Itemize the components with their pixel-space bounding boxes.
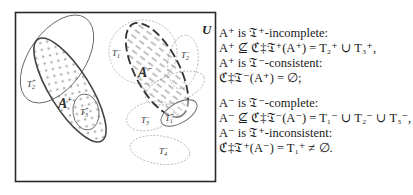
text-line-3: A⁺ is 𝔗⁻-consistent: bbox=[219, 56, 413, 71]
label-T1-minus: T1− bbox=[112, 47, 121, 59]
text-gap bbox=[219, 86, 413, 96]
text-line-8: A⁻ is 𝔗⁺-inconsistent: bbox=[219, 126, 413, 141]
text-line-7: A⁻ ⊈ ℭ‡𝔗⁻(A⁻) = T₁⁻ ∪ T₂⁻ ∪ T₃⁻, bbox=[219, 111, 413, 126]
label-T4-minus: T4− bbox=[159, 145, 168, 157]
label-T1-plus: T1+ bbox=[165, 112, 174, 124]
text-line-9: ℭ‡𝔗⁺(A⁻) = T₁⁺ ≠ ∅. bbox=[219, 141, 413, 156]
label-T3-minus: T3− bbox=[141, 114, 150, 126]
label-T2-minus: T2− bbox=[181, 49, 190, 61]
venn-diagram: * U T2+ A+ T3+ T1− T2− A− T3− T1+ bbox=[0, 0, 220, 195]
text-line-6: A⁻ is 𝔗⁻-complete: bbox=[219, 96, 413, 111]
description-panel: A⁺ is 𝔗⁺-incomplete: A⁺ ⊈ ℭ‡𝔗⁺(A⁺) = T₂⁺… bbox=[219, 26, 413, 156]
text-line-4: ℭ‡𝔗⁻(A⁺) = ∅; bbox=[219, 71, 413, 86]
label-T3-plus: T3+ bbox=[80, 106, 89, 118]
label-T2-plus: T2+ bbox=[27, 78, 36, 90]
universe-label: U bbox=[202, 22, 212, 37]
text-line-2: A⁺ ⊈ ℭ‡𝔗⁺(A⁺) = T₂⁺ ∪ T₃⁺, bbox=[219, 41, 413, 56]
text-line-1: A⁺ is 𝔗⁺-incomplete: bbox=[219, 26, 413, 41]
